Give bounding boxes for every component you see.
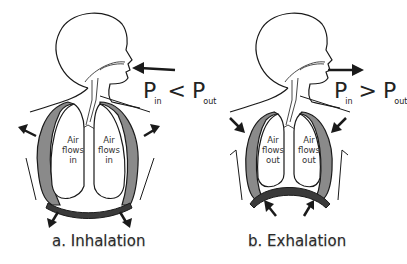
lung-label-line: flows: [296, 145, 322, 155]
chest-expand-arrow-left-icon: [24, 130, 36, 136]
pressure-subscript: in: [345, 97, 352, 106]
lung-left-label-inhalation: Air flows in: [60, 135, 86, 165]
lung-label-line: flows: [96, 145, 122, 155]
lung-label-line: in: [60, 155, 86, 165]
inhalation-chest: [26, 96, 154, 219]
lung-label-line: out: [260, 155, 286, 165]
lung-label-line: Air: [260, 135, 286, 145]
pressure-relation-exhalation: Pin>Pout: [334, 80, 407, 113]
mouth-inflow-arrow-icon: [140, 68, 175, 70]
caption-inhalation: a. Inhalation: [52, 232, 145, 250]
lung-label-line: in: [96, 155, 122, 165]
lung-left-label-exhalation: Air flows out: [260, 135, 286, 165]
pressure-operator: <: [168, 78, 186, 103]
pressure-subscript: out: [203, 97, 216, 106]
lung-label-line: Air: [96, 135, 122, 145]
pressure-relation-inhalation: Pin<Pout: [143, 80, 216, 113]
caption-exhalation: b. Exhalation: [248, 232, 346, 250]
pressure-subscript: out: [394, 97, 407, 106]
lung-label-line: flows: [260, 145, 286, 155]
chest-expand-arrow-right-icon: [144, 130, 154, 136]
pressure-subscript: in: [154, 97, 161, 106]
diaphragm-down-arrow-right-icon: [120, 212, 126, 222]
exhalation-chest: [230, 96, 350, 208]
lung-label-line: out: [296, 155, 322, 165]
lung-label-line: Air: [60, 135, 86, 145]
diaphragm-up-arrow-right-icon: [304, 206, 310, 216]
lung-right-label-inhalation: Air flows in: [96, 135, 122, 165]
pressure-operator: >: [359, 78, 377, 103]
lung-label-line: flows: [60, 145, 86, 155]
lung-right-label-exhalation: Air flows out: [296, 135, 322, 165]
exhalation-figure: [230, 13, 340, 132]
lung-label-line: Air: [296, 135, 322, 145]
